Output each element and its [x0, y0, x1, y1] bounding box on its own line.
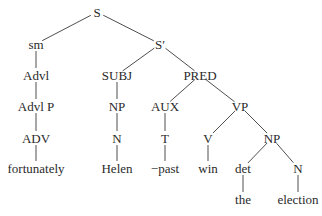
node-t: T [161, 132, 169, 145]
edge-pred-vp [206, 79, 235, 101]
node-v: V [203, 132, 212, 145]
edge-vp-v [213, 111, 235, 133]
node-past: −past [151, 162, 179, 175]
node-n1: N [112, 132, 121, 145]
node-np1: NP [109, 100, 126, 113]
edge-s-sm [42, 15, 91, 40]
node-s: S [93, 6, 100, 19]
edge-s-sbar [103, 15, 154, 41]
edge-np2-n2 [277, 143, 294, 162]
node-win: win [198, 162, 218, 175]
node-np2: NP [264, 132, 281, 145]
node-det: det [235, 162, 251, 175]
node-n2: N [293, 162, 302, 175]
node-subj: SUBJ [102, 69, 132, 82]
node-sm: sm [28, 38, 43, 51]
node-sbar: S′ [155, 38, 165, 51]
node-fortunately: fortunately [7, 162, 64, 175]
node-aux: AUX [151, 100, 179, 113]
node-advlp: Advl P [18, 100, 54, 113]
node-pred: PRED [183, 69, 216, 82]
node-vp: VP [232, 100, 249, 113]
node-the: the [235, 193, 251, 206]
node-election: election [277, 193, 318, 206]
node-advl: Advl [23, 69, 49, 82]
syntax-tree-diagram: SsmS′AdvlSUBJPREDAdvl PNPAUXVPADVNTVNPfo… [0, 0, 322, 216]
node-helen: Helen [101, 162, 132, 175]
node-adv: ADV [22, 132, 50, 145]
